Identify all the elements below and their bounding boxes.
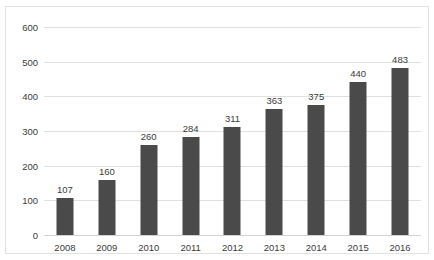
y-axis-tick-label: 0 [33, 230, 38, 241]
y-axis-tick-label: 500 [22, 56, 38, 67]
x-axis-tick-label: 2008 [54, 242, 75, 253]
x-axis-tick-label: 2015 [348, 242, 369, 253]
bar-group: 483 [379, 27, 421, 235]
chart-frame: 0100200300400500600 10716026028431136337… [5, 6, 429, 254]
bar-value-label: 363 [266, 95, 282, 106]
y-axis-tick-label: 300 [22, 126, 38, 137]
bar-value-label: 284 [183, 123, 199, 134]
gridline [44, 235, 421, 236]
bar [392, 68, 409, 235]
bar [140, 145, 157, 235]
y-axis-tick-label: 100 [22, 195, 38, 206]
bar-group: 363 [253, 27, 295, 235]
bar-group: 107 [44, 27, 86, 235]
bar [56, 198, 73, 235]
y-axis-tick-label: 200 [22, 160, 38, 171]
x-axis-tick-label: 2012 [222, 242, 243, 253]
bar [266, 109, 283, 235]
x-axis-tick-label: 2009 [96, 242, 117, 253]
bar-value-label: 375 [308, 91, 324, 102]
bar-group: 375 [295, 27, 337, 235]
bar-value-label: 107 [57, 184, 73, 195]
bar-group: 440 [337, 27, 379, 235]
bar-group: 160 [86, 27, 128, 235]
bar-chart: 0100200300400500600 10716026028431136337… [0, 0, 434, 260]
bar-value-label: 483 [392, 54, 408, 65]
cropped-title-sliver [4, 0, 74, 2]
bar-value-label: 311 [225, 113, 240, 124]
bar [350, 82, 367, 235]
bar [182, 137, 199, 235]
bar-group: 311 [212, 27, 254, 235]
x-axis-tick-label: 2016 [389, 242, 410, 253]
bar-group: 260 [128, 27, 170, 235]
x-axis-tick-label: 2011 [180, 242, 200, 253]
bar [224, 127, 241, 235]
plot-area: 0100200300400500600 10716026028431136337… [44, 27, 421, 235]
y-axis-tick-label: 600 [22, 22, 38, 33]
bar-value-label: 260 [141, 131, 157, 142]
y-axis-tick-label: 400 [22, 91, 38, 102]
bar-value-label: 160 [99, 166, 115, 177]
x-axis-tick-label: 2010 [138, 242, 159, 253]
x-axis-tick-label: 2013 [264, 242, 285, 253]
bar [98, 180, 115, 235]
bar [308, 105, 325, 235]
bar-group: 284 [170, 27, 212, 235]
x-axis-tick-label: 2014 [306, 242, 327, 253]
bar-value-label: 440 [350, 68, 366, 79]
